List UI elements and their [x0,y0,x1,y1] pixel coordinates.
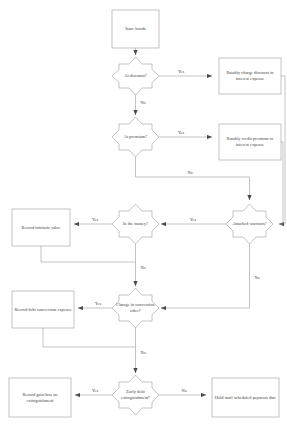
node-early-extinguish-shape [112,375,159,415]
node-at-premium-shape [112,117,159,157]
node-credit-premium-shape [219,124,281,160]
edge-conversion-expense-return [43,328,136,347]
node-at-discount-shape [112,57,159,95]
node-attached-warrants-shape [226,204,273,244]
node-record-conversion-shape [12,291,74,328]
flowchart-canvas: charge discount --> At premium? --> cred… [0,0,287,429]
node-in-the-money-shape [112,204,159,244]
edge-intrinsic-return [41,246,136,262]
node-charge-discount-shape [219,58,281,94]
node-hold-until-shape [212,378,279,417]
edge-premium-no [136,157,250,200]
node-change-conversion-shape [112,288,159,328]
edge-warrants-no [161,244,250,308]
node-record-intrinsic-shape [12,209,70,246]
node-issue-bonds-shape [112,10,159,48]
node-record-gain-loss-shape [9,378,71,417]
flowchart-graphics: charge discount --> At premium? --> cred… [0,0,287,429]
